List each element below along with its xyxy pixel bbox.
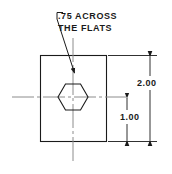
- hex-note-line-1: .75 ACROSS: [58, 11, 117, 22]
- dimension-label-center-height: 1.00: [119, 112, 141, 122]
- hex-note-line-2: THE FLATS: [58, 23, 112, 34]
- dimension-label-overall-height: 2.00: [136, 78, 158, 88]
- engineering-drawing-canvas: .75 ACROSS THE FLATS 2.00 1.00: [0, 0, 172, 174]
